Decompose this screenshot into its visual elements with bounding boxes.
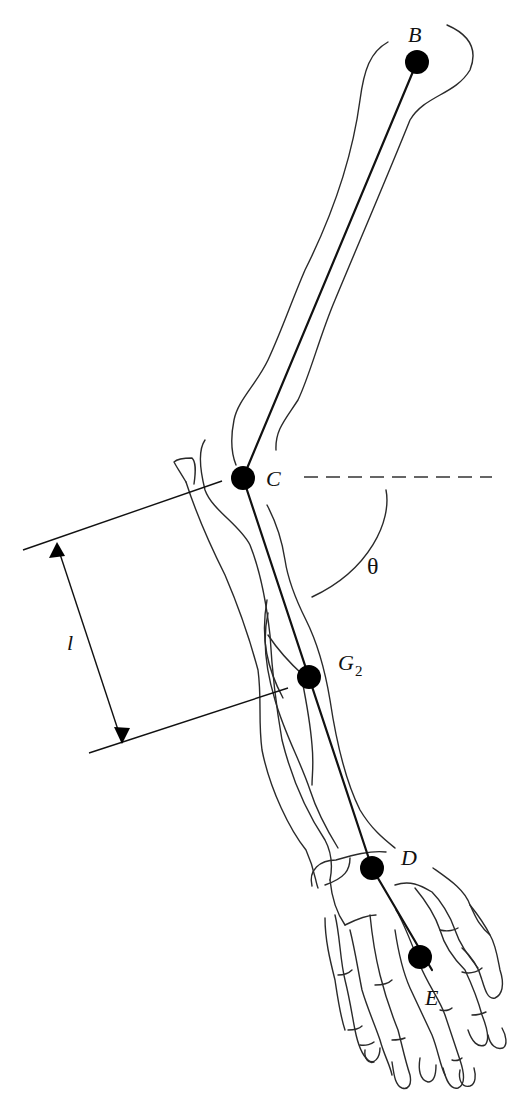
joint-D xyxy=(360,856,384,880)
label-G-subscript: 2 xyxy=(355,663,363,679)
length-label: l xyxy=(67,630,73,655)
arm-diagram: θ l B C G 2 D E xyxy=(0,0,523,1094)
hand-outline xyxy=(311,852,506,1089)
joint-B xyxy=(405,50,429,74)
arm-diagram-svg: θ l B C G 2 D E xyxy=(0,0,523,1094)
arrowhead-bottom xyxy=(114,727,130,744)
arrowhead-top xyxy=(49,542,65,558)
upper-arm-outline xyxy=(232,25,473,465)
center-of-mass-G2 xyxy=(297,665,321,689)
angle-label: θ xyxy=(367,553,379,579)
label-C: C xyxy=(266,466,281,491)
angle-arc xyxy=(312,490,387,597)
label-E: E xyxy=(424,985,439,1010)
label-D: D xyxy=(400,845,417,870)
joint-C xyxy=(231,466,255,490)
label-G: G xyxy=(338,650,354,675)
dimension-extension-bottom xyxy=(89,688,288,753)
joint-E xyxy=(408,945,432,969)
segment-lines xyxy=(243,62,432,970)
dimension-extension-top xyxy=(23,481,222,550)
length-dimension: l xyxy=(23,481,288,753)
segment-upper-arm xyxy=(243,62,417,478)
label-B: B xyxy=(408,22,421,47)
